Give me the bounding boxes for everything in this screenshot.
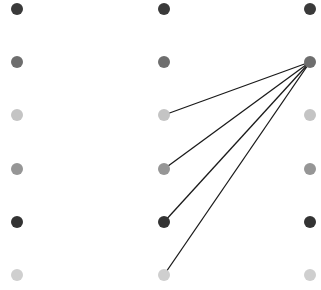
dot-node-right-4 [304, 216, 316, 228]
dot-node-left-5 [11, 269, 23, 281]
dot-node-left-1 [11, 56, 23, 68]
dot-node-left-2 [11, 109, 23, 121]
dot-nodes [11, 3, 316, 281]
dot-node-middle-3 [158, 163, 170, 175]
connection-lines [164, 62, 310, 275]
edge-line-0 [164, 62, 310, 115]
dot-node-middle-1 [158, 56, 170, 68]
dot-node-right-3 [304, 163, 316, 175]
dot-node-middle-0 [158, 3, 170, 15]
edge-line-3 [164, 62, 310, 275]
dot-node-right-5 [304, 269, 316, 281]
dot-node-right-1 [304, 56, 316, 68]
dot-node-left-4 [11, 216, 23, 228]
edge-line-1 [164, 62, 310, 169]
dot-node-middle-2 [158, 109, 170, 121]
dot-node-left-0 [11, 3, 23, 15]
dot-node-right-0 [304, 3, 316, 15]
edge-line-2 [164, 62, 310, 222]
dot-grid-diagram [0, 0, 321, 290]
dot-node-middle-4 [158, 216, 170, 228]
dot-node-right-2 [304, 109, 316, 121]
dot-node-left-3 [11, 163, 23, 175]
dot-node-middle-5 [158, 269, 170, 281]
